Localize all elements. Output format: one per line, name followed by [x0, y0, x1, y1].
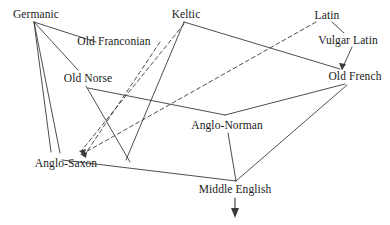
node-middle-english: Middle English: [199, 183, 272, 195]
node-old-franconian: Old Franconian: [77, 35, 150, 47]
node-keltic: Keltic: [172, 8, 201, 20]
edge-anglo-norman-middle-english: [228, 133, 236, 181]
edge-keltic-old-french: [184, 22, 340, 69]
edge-old-french-middle-english: [236, 85, 347, 181]
node-anglo-saxon: Anglo-Saxon: [35, 157, 97, 169]
language-descent-diagram: Germanic Old Franconian Keltic Latin Vul…: [0, 0, 390, 225]
edge-germanic-anglo-saxon-b: [34, 22, 51, 152]
edge-latin-vulgar-latin: [332, 22, 344, 33]
node-anglo-norman: Anglo-Norman: [191, 119, 262, 131]
node-old-french: Old French: [328, 70, 381, 82]
node-old-norse: Old Norse: [64, 72, 113, 84]
node-latin: Latin: [315, 9, 340, 21]
node-germanic: Germanic: [13, 8, 59, 20]
arrowhead-terminal-down: [231, 208, 239, 218]
edge-germanic-anglo-saxon-a: [34, 22, 60, 153]
node-vulgar-latin: Vulgar Latin: [318, 34, 378, 46]
edge-old-franconian-anglo-saxon-dashed: [84, 42, 160, 156]
edge-old-french-anglo-norman: [225, 84, 345, 115]
edge-old-norse-anglo-norman: [88, 88, 225, 115]
